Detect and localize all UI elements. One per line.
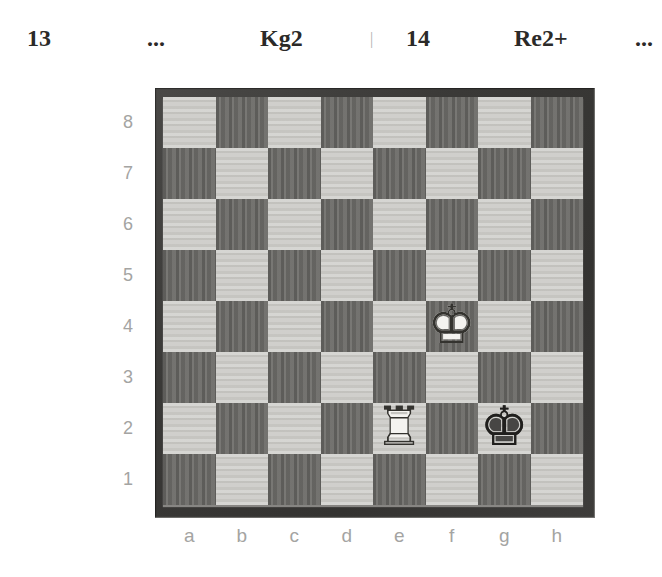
square-e6[interactable] bbox=[373, 199, 426, 250]
square-b1[interactable] bbox=[216, 454, 269, 505]
file-labels: a b c d e f g h bbox=[163, 524, 583, 548]
white-king-outline-glyph: ♔ bbox=[428, 297, 476, 351]
square-e5[interactable] bbox=[373, 250, 426, 301]
rank-label-6: 6 bbox=[112, 199, 144, 250]
white-king-piece[interactable]: ♚♔ bbox=[426, 301, 479, 352]
square-h6[interactable] bbox=[531, 199, 584, 250]
rank-label-3: 3 bbox=[112, 352, 144, 403]
black-move-13: Kg2 bbox=[260, 26, 303, 50]
file-label-c: c bbox=[268, 524, 321, 548]
square-d5[interactable] bbox=[321, 250, 374, 301]
square-c5[interactable] bbox=[268, 250, 321, 301]
square-c3[interactable] bbox=[268, 352, 321, 403]
square-b6[interactable] bbox=[216, 199, 269, 250]
black-king-piece[interactable]: ♚♔ bbox=[478, 403, 531, 454]
square-f7[interactable] bbox=[426, 148, 479, 199]
square-a6[interactable] bbox=[163, 199, 216, 250]
square-h1[interactable] bbox=[531, 454, 584, 505]
square-d4[interactable] bbox=[321, 301, 374, 352]
square-b7[interactable] bbox=[216, 148, 269, 199]
square-c6[interactable] bbox=[268, 199, 321, 250]
square-a2[interactable] bbox=[163, 403, 216, 454]
square-d6[interactable] bbox=[321, 199, 374, 250]
book-page: 13 ... Kg2 | 14 Re2+ ... 8 7 6 5 4 3 2 1… bbox=[0, 0, 662, 577]
rank-label-5: 5 bbox=[112, 250, 144, 301]
square-a1[interactable] bbox=[163, 454, 216, 505]
square-d8[interactable] bbox=[321, 97, 374, 148]
chess-board[interactable]: ♚♔♜♖♚♔ bbox=[163, 97, 583, 505]
square-h5[interactable] bbox=[531, 250, 584, 301]
square-f1[interactable] bbox=[426, 454, 479, 505]
white-rook-piece[interactable]: ♜♖ bbox=[373, 403, 426, 454]
square-d7[interactable] bbox=[321, 148, 374, 199]
square-c7[interactable] bbox=[268, 148, 321, 199]
square-f8[interactable] bbox=[426, 97, 479, 148]
file-label-b: b bbox=[216, 524, 269, 548]
file-label-h: h bbox=[531, 524, 584, 548]
black-move-14-ellipsis: ... bbox=[635, 26, 653, 50]
file-label-g: g bbox=[478, 524, 531, 548]
square-g8[interactable] bbox=[478, 97, 531, 148]
square-h8[interactable] bbox=[531, 97, 584, 148]
square-c2[interactable] bbox=[268, 403, 321, 454]
square-a5[interactable] bbox=[163, 250, 216, 301]
white-move-14: Re2+ bbox=[514, 26, 568, 50]
move-number-14: 14 bbox=[406, 26, 430, 50]
file-label-f: f bbox=[426, 524, 479, 548]
square-g6[interactable] bbox=[478, 199, 531, 250]
square-b4[interactable] bbox=[216, 301, 269, 352]
square-a3[interactable] bbox=[163, 352, 216, 403]
square-e7[interactable] bbox=[373, 148, 426, 199]
square-d3[interactable] bbox=[321, 352, 374, 403]
column-separator: | bbox=[370, 31, 373, 47]
white-rook-outline-glyph: ♖ bbox=[375, 399, 423, 453]
square-g4[interactable] bbox=[478, 301, 531, 352]
square-h4[interactable] bbox=[531, 301, 584, 352]
black-king-outline-glyph: ♔ bbox=[480, 399, 528, 453]
square-d2[interactable] bbox=[321, 403, 374, 454]
square-g7[interactable] bbox=[478, 148, 531, 199]
square-b3[interactable] bbox=[216, 352, 269, 403]
square-e4[interactable] bbox=[373, 301, 426, 352]
square-a7[interactable] bbox=[163, 148, 216, 199]
square-b2[interactable] bbox=[216, 403, 269, 454]
square-a4[interactable] bbox=[163, 301, 216, 352]
file-label-e: e bbox=[373, 524, 426, 548]
square-f6[interactable] bbox=[426, 199, 479, 250]
white-move-13-ellipsis: ... bbox=[147, 26, 165, 50]
square-g1[interactable] bbox=[478, 454, 531, 505]
square-h3[interactable] bbox=[531, 352, 584, 403]
rank-label-4: 4 bbox=[112, 301, 144, 352]
square-e8[interactable] bbox=[373, 97, 426, 148]
square-c1[interactable] bbox=[268, 454, 321, 505]
rank-label-1: 1 bbox=[112, 454, 144, 505]
move-number-13: 13 bbox=[27, 26, 51, 50]
square-f3[interactable] bbox=[426, 352, 479, 403]
square-b8[interactable] bbox=[216, 97, 269, 148]
square-c8[interactable] bbox=[268, 97, 321, 148]
rank-labels: 8 7 6 5 4 3 2 1 bbox=[112, 97, 144, 505]
square-a8[interactable] bbox=[163, 97, 216, 148]
file-label-d: d bbox=[321, 524, 374, 548]
square-b5[interactable] bbox=[216, 250, 269, 301]
square-h7[interactable] bbox=[531, 148, 584, 199]
file-label-a: a bbox=[163, 524, 216, 548]
chess-board-frame: ♚♔♜♖♚♔ bbox=[155, 88, 595, 518]
rank-label-7: 7 bbox=[112, 148, 144, 199]
square-f2[interactable] bbox=[426, 403, 479, 454]
rank-label-8: 8 bbox=[112, 97, 144, 148]
rank-label-2: 2 bbox=[112, 403, 144, 454]
square-e1[interactable] bbox=[373, 454, 426, 505]
square-g5[interactable] bbox=[478, 250, 531, 301]
square-d1[interactable] bbox=[321, 454, 374, 505]
square-c4[interactable] bbox=[268, 301, 321, 352]
square-h2[interactable] bbox=[531, 403, 584, 454]
